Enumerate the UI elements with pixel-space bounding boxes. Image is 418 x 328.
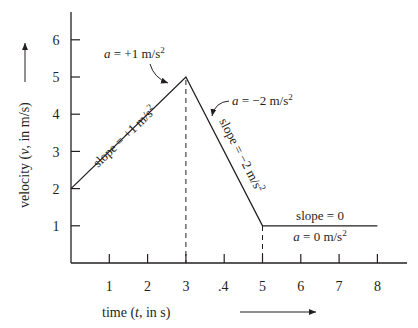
velocity-time-chart: 1 2 3 4 5 6 1 2 3 .4 5 6 7 8 a = +1 m/s2…	[0, 0, 418, 328]
accel-annotation-2: a = −2 m/s2	[232, 92, 293, 108]
x-tick-label: 1	[106, 279, 113, 294]
y-ticks	[71, 40, 80, 226]
slope-label-1: slope = +1 m/s2	[89, 102, 159, 170]
x-ticks	[109, 254, 377, 263]
x-tick-label: 3	[182, 279, 189, 294]
x-tick-label: 2	[144, 279, 151, 294]
y-tick-labels: 1 2 3 4 5 6	[53, 33, 60, 234]
x-tick-label: .4	[218, 279, 229, 294]
y-tick-label: 1	[53, 219, 60, 234]
y-tick-label: 4	[53, 107, 60, 122]
slope-label-3: slope = 0	[296, 208, 344, 223]
slope-label-2: slope = −2 m/s2	[216, 115, 268, 195]
y-tick-label: 2	[53, 182, 60, 197]
x-axis-label: time (t, in s)	[102, 305, 171, 321]
y-axis-label: velocity (v, in m/s)	[17, 102, 33, 208]
accel-annotation-1: a = +1 m/s2	[104, 45, 165, 61]
x-tick-label: 8	[374, 279, 381, 294]
curved-arrow-2	[212, 101, 229, 116]
y-tick-label: 6	[53, 33, 60, 48]
y-tick-label: 3	[53, 145, 60, 160]
x-tick-label: 6	[297, 279, 304, 294]
y-tick-label: 5	[53, 70, 60, 85]
curved-arrow-1	[150, 64, 168, 83]
x-tick-label: 5	[259, 279, 266, 294]
x-tick-labels: 1 2 3 .4 5 6 7 8	[106, 279, 381, 294]
x-tick-label: 7	[336, 279, 343, 294]
accel-annotation-3: a = 0 m/s2	[293, 228, 346, 244]
